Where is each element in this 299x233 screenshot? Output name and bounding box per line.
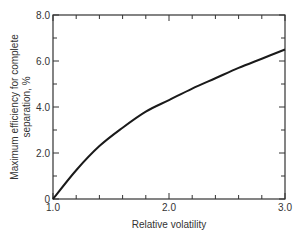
efficiency-curve [53, 50, 285, 200]
minor-ticks [53, 15, 285, 199]
y-tick-label: 2.0 [36, 148, 50, 159]
y-axis-label-line1: Maximum efficiency for complete [9, 34, 20, 180]
x-tick-label: 2.0 [162, 202, 176, 213]
x-axis-label: Relative volatility [132, 219, 206, 230]
y-tick-label: 6.0 [36, 56, 50, 67]
plot-frame [53, 15, 285, 199]
y-axis-label-line2: separation, % [21, 76, 32, 137]
y-tick-label: 4.0 [36, 102, 50, 113]
y-tick-label: 0 [44, 194, 50, 205]
y-tick-label: 8.0 [36, 10, 50, 21]
tick-labels: 1.02.03.002.04.06.08.0 [36, 10, 292, 213]
efficiency-chart: 1.02.03.002.04.06.08.0 Relative volatili… [0, 0, 299, 233]
x-tick-label: 3.0 [278, 202, 292, 213]
